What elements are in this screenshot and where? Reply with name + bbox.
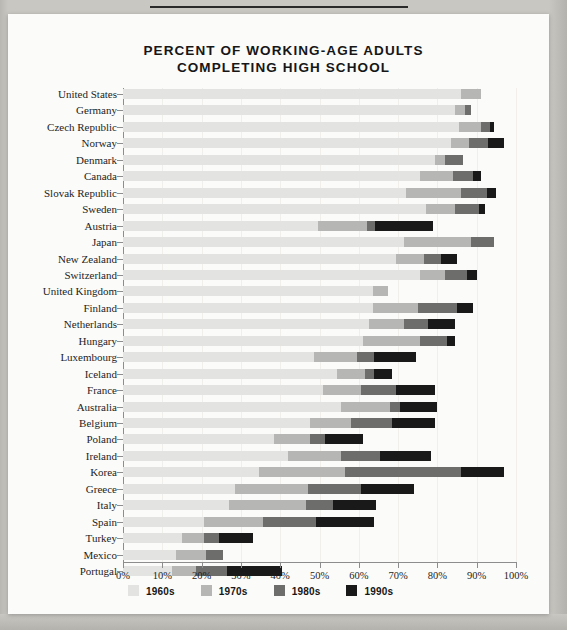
- x-tick: [202, 562, 203, 568]
- bar-segment-1970s: [363, 336, 420, 346]
- bar-segment-1960s: [123, 221, 318, 231]
- bar-segment-1980s: [445, 155, 463, 165]
- y-axis-label: Poland: [5, 434, 117, 445]
- bar-segment-1990s: [374, 352, 415, 362]
- y-axis-label: Belgium: [5, 418, 117, 429]
- gridline: [516, 88, 517, 562]
- bar-segment-1960s: [123, 533, 182, 543]
- bar-segment-1970s: [274, 434, 309, 444]
- bar-segment-1960s: [123, 254, 396, 264]
- bar-row: [123, 467, 504, 477]
- bar-segment-1970s: [323, 385, 360, 395]
- bar-segment-1960s: [123, 89, 461, 99]
- chart-title-line2: COMPLETING HIGH SCHOOL: [0, 59, 567, 76]
- bar-segment-1960s: [123, 418, 310, 428]
- bar-segment-1980s: [365, 369, 375, 379]
- legend-swatch-1990s: [346, 585, 357, 596]
- y-axis-label: Spain: [5, 517, 117, 528]
- bar-segment-1990s: [400, 402, 437, 412]
- bar-segment-1990s: [428, 319, 456, 329]
- bar-segment-1960s: [123, 352, 314, 362]
- bar-segment-1960s: [123, 105, 455, 115]
- y-axis-label: Hungary: [5, 336, 117, 347]
- bar-row: [123, 319, 455, 329]
- bar-segment-1980s: [481, 122, 491, 132]
- chart-title-line1: PERCENT OF WORKING-AGE ADULTS: [143, 43, 423, 58]
- bar-segment-1980s: [357, 352, 375, 362]
- y-axis-label: Greece: [5, 484, 117, 495]
- bar-row: [123, 188, 496, 198]
- bar-segment-1990s: [333, 500, 376, 510]
- bar-segment-1960s: [123, 467, 259, 477]
- page-edge-right: [549, 0, 567, 630]
- bar-segment-1970s: [229, 500, 306, 510]
- y-axis-label: Netherlands: [5, 319, 117, 330]
- legend-label: 1970s: [219, 586, 248, 597]
- bar-segment-1980s: [310, 434, 326, 444]
- bar-segment-1970s: [182, 533, 204, 543]
- bar-row: [123, 155, 463, 165]
- bar-segment-1970s: [420, 171, 453, 181]
- x-axis-label: 100%: [491, 570, 541, 581]
- y-axis-label: New Zealand: [5, 254, 117, 265]
- x-tick: [162, 562, 163, 568]
- y-axis-label: Australia: [5, 402, 117, 413]
- bar-segment-1970s: [451, 138, 469, 148]
- legend-item: 1970s: [201, 585, 248, 597]
- bar-row: [123, 122, 494, 132]
- bar-segment-1980s: [453, 171, 473, 181]
- legend-item: 1980s: [274, 585, 321, 597]
- x-tick: [241, 562, 242, 568]
- bar-segment-1980s: [361, 385, 396, 395]
- bar-segment-1970s: [369, 319, 404, 329]
- bar-segment-1960s: [123, 270, 420, 280]
- x-tick: [320, 562, 321, 568]
- bar-segment-1970s: [459, 122, 481, 132]
- bar-segment-1960s: [123, 385, 323, 395]
- bar-segment-1960s: [123, 369, 337, 379]
- bar-row: [123, 550, 223, 560]
- legend-label: 1980s: [292, 586, 321, 597]
- bar-segment-1970s: [420, 270, 446, 280]
- bar-segment-1960s: [123, 451, 288, 461]
- bar-segment-1990s: [325, 434, 362, 444]
- bar-segment-1970s: [341, 402, 390, 412]
- y-axis-label: Korea: [5, 467, 117, 478]
- bar-row: [123, 385, 435, 395]
- bar-segment-1970s: [435, 155, 445, 165]
- legend-label: 1960s: [146, 586, 175, 597]
- y-axis-label: Sweden: [5, 204, 117, 215]
- y-axis-label: Czech Republic: [5, 122, 117, 133]
- legend-swatch-1970s: [201, 585, 212, 596]
- bar-row: [123, 517, 374, 527]
- bar-segment-1970s: [373, 303, 418, 313]
- y-axis-label: Canada: [5, 171, 117, 182]
- bar-segment-1980s: [465, 105, 471, 115]
- bar-row: [123, 221, 433, 231]
- bar-segment-1990s: [396, 385, 435, 395]
- bar-segment-1960s: [123, 237, 404, 247]
- bar-row: [123, 500, 376, 510]
- bar-segment-1960s: [123, 319, 369, 329]
- y-axis-label: Austria: [5, 221, 117, 232]
- bar-segment-1970s: [318, 221, 367, 231]
- bar-segment-1970s: [310, 418, 351, 428]
- screenshot-page: PERCENT OF WORKING-AGE ADULTS COMPLETING…: [0, 0, 567, 630]
- bar-row: [123, 336, 455, 346]
- y-axis-label: Finland: [5, 303, 117, 314]
- bar-segment-1960s: [123, 336, 363, 346]
- bar-segment-1980s: [341, 451, 380, 461]
- y-axis-label: Switzerland: [5, 270, 117, 281]
- y-axis-label: Mexico: [5, 550, 117, 561]
- bar-segment-1980s: [424, 254, 442, 264]
- y-axis-label: Germany: [5, 105, 117, 116]
- bar-segment-1970s: [314, 352, 357, 362]
- bar-segment-1970s: [373, 286, 389, 296]
- bar-segment-1980s: [469, 138, 489, 148]
- bar-row: [123, 369, 392, 379]
- bar-segment-1960s: [123, 500, 229, 510]
- legend-swatch-1980s: [274, 585, 285, 596]
- x-tick: [123, 562, 124, 568]
- y-axis-label: United States: [5, 89, 117, 100]
- bar-segment-1990s: [467, 270, 477, 280]
